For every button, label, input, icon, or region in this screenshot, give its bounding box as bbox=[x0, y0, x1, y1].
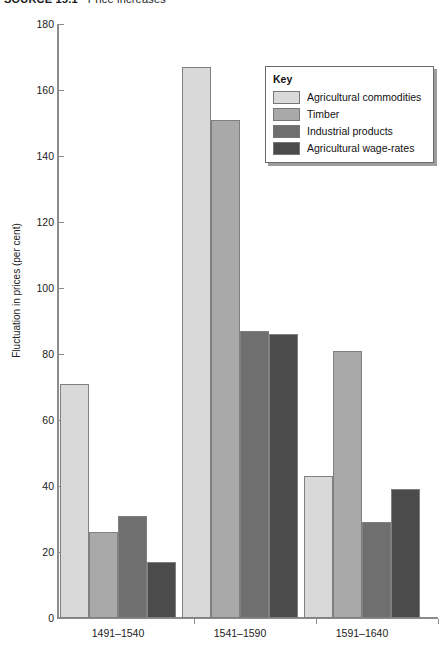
bar bbox=[147, 562, 176, 618]
y-axis-tick-text: 140 bbox=[14, 151, 54, 161]
y-axis-tick-label: 40 bbox=[0, 481, 54, 491]
legend-item-label: Timber bbox=[307, 108, 339, 120]
y-axis-tick bbox=[59, 24, 64, 25]
legend-swatch-icon bbox=[273, 108, 300, 121]
y-axis-tick-text: 40 bbox=[14, 481, 54, 491]
legend-swatch-icon bbox=[273, 91, 300, 104]
y-axis-tick bbox=[59, 90, 64, 91]
y-axis-tick-label: 80 bbox=[0, 349, 54, 359]
y-axis-tick-text: 0 bbox=[14, 613, 54, 623]
x-axis-group-label: 1541–1590 bbox=[170, 627, 310, 639]
legend-title: Key bbox=[273, 73, 426, 85]
bar bbox=[60, 384, 89, 618]
x-axis-group-label: 1491–1540 bbox=[48, 627, 188, 639]
bar bbox=[211, 120, 240, 618]
y-axis-line bbox=[57, 24, 59, 618]
legend-swatch-icon bbox=[273, 142, 300, 155]
x-axis-group-label: 1591–1640 bbox=[292, 627, 432, 639]
bar bbox=[269, 334, 298, 618]
y-axis-tick-text: 180 bbox=[14, 19, 54, 29]
legend-item: Agricultural wage-rates bbox=[273, 141, 426, 155]
y-axis-tick bbox=[59, 288, 64, 289]
legend-swatch-icon bbox=[273, 125, 300, 138]
legend-item-label: Agricultural commodities bbox=[307, 91, 421, 103]
legend-item-label: Agricultural wage-rates bbox=[307, 142, 414, 154]
bar bbox=[89, 532, 118, 618]
y-axis-title: Fluctuation in prices (per cent) bbox=[11, 201, 22, 381]
legend-rows: Agricultural commoditiesTimberIndustrial… bbox=[273, 90, 426, 155]
y-axis-tick bbox=[59, 354, 64, 355]
y-axis-tick bbox=[59, 156, 64, 157]
y-axis-tick-label: 180 bbox=[0, 19, 54, 29]
bar bbox=[118, 516, 147, 618]
bar bbox=[333, 351, 362, 618]
legend-item: Industrial products bbox=[273, 124, 426, 138]
y-axis-tick-label: 140 bbox=[0, 151, 54, 161]
legend-item: Agricultural commodities bbox=[273, 90, 426, 104]
x-axis-tick bbox=[438, 619, 439, 624]
y-axis-tick-label: 20 bbox=[0, 547, 54, 557]
y-axis-tick-text: 20 bbox=[14, 547, 54, 557]
y-axis-tick bbox=[59, 618, 64, 619]
bar bbox=[391, 489, 420, 618]
bar-chart: 020406080100120140160180 Fluctuation in … bbox=[0, 0, 446, 657]
bar bbox=[182, 67, 211, 618]
bar bbox=[362, 522, 391, 618]
legend-item-label: Industrial products bbox=[307, 125, 393, 137]
y-axis-tick-label: 60 bbox=[0, 415, 54, 425]
y-axis-tick-label: 100 bbox=[0, 283, 54, 293]
y-axis-tick bbox=[59, 222, 64, 223]
y-axis-tick-label: 160 bbox=[0, 85, 54, 95]
y-axis-tick-label: 0 bbox=[0, 613, 54, 623]
legend: Key Agricultural commoditiesTimberIndust… bbox=[265, 66, 434, 163]
x-axis-tick bbox=[194, 619, 195, 624]
y-axis-tick-label: 120 bbox=[0, 217, 54, 227]
y-axis-tick-text: 60 bbox=[14, 415, 54, 425]
y-axis-tick-text: 160 bbox=[14, 85, 54, 95]
x-axis-tick bbox=[316, 619, 317, 624]
bar bbox=[240, 331, 269, 618]
bar bbox=[304, 476, 333, 618]
legend-item: Timber bbox=[273, 107, 426, 121]
